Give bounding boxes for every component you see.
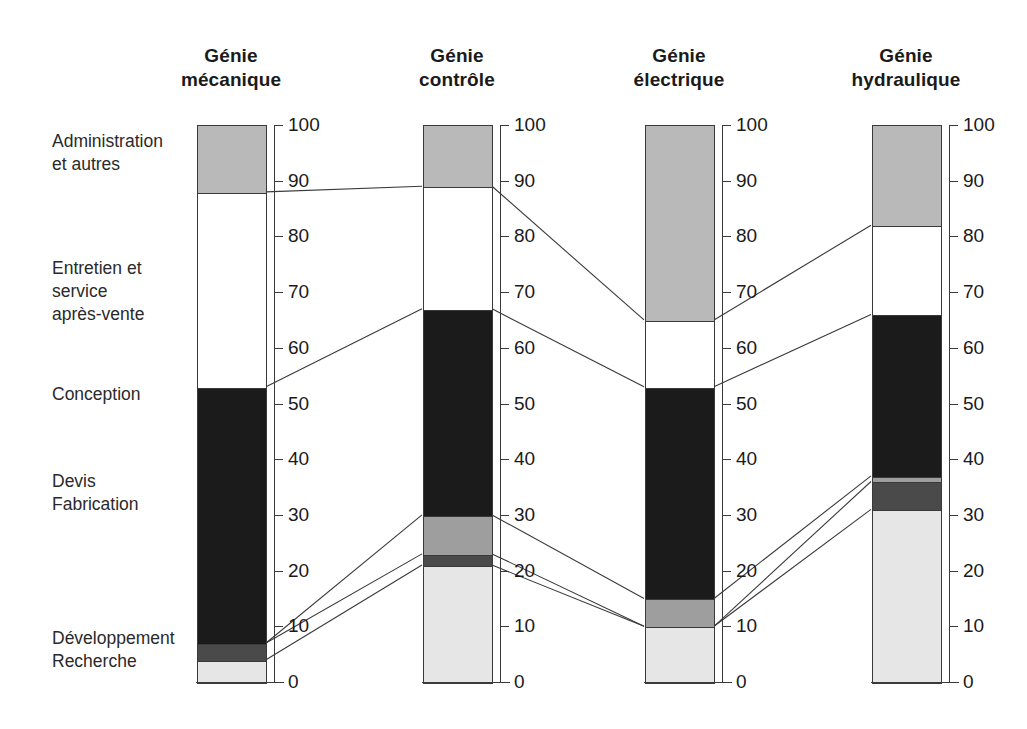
y-tick-label: 100 xyxy=(963,115,1003,134)
y-tick-label: 40 xyxy=(736,449,776,468)
segment-divider xyxy=(646,599,714,600)
segment-divider xyxy=(198,661,266,662)
y-tick-label: 20 xyxy=(514,561,554,580)
y-tick-label: 80 xyxy=(736,226,776,245)
column-header-genie-controle: Génie contrôle xyxy=(367,44,547,92)
segment-divider xyxy=(873,510,941,511)
x-axis-baseline-col2 xyxy=(422,682,510,683)
y-tick-label: 90 xyxy=(288,171,328,190)
y-tick-label: 0 xyxy=(963,672,1003,691)
y-tick xyxy=(500,181,509,182)
category-label-line: Fabrication xyxy=(52,493,202,516)
y-tick xyxy=(722,571,731,572)
y-tick xyxy=(949,571,958,572)
y-tick xyxy=(274,515,283,516)
y-tick xyxy=(500,404,509,405)
y-tick xyxy=(274,125,283,126)
y-tick-label: 30 xyxy=(514,505,554,524)
y-tick-label: 90 xyxy=(736,171,776,190)
y-tick xyxy=(949,292,958,293)
segment-divider xyxy=(198,388,266,389)
y-tick-label: 100 xyxy=(514,115,554,134)
segment-divider xyxy=(424,555,492,556)
y-tick-label: 30 xyxy=(963,505,1003,524)
y-tick xyxy=(722,125,731,126)
segment-divider xyxy=(424,187,492,188)
bar-segment-administration xyxy=(198,126,266,193)
y-tick-label: 50 xyxy=(736,394,776,413)
category-label-line: Développement xyxy=(52,627,202,650)
y-tick-label: 60 xyxy=(736,338,776,357)
stacked-bar-chart: Génie mécanique Génie contrôle Génie éle… xyxy=(0,0,1027,729)
column-header-line1: Génie xyxy=(589,44,769,68)
category-label-line: Entretien et xyxy=(52,257,202,280)
y-tick xyxy=(949,404,958,405)
bar-segment-fabrication xyxy=(198,644,266,661)
y-tick-label: 10 xyxy=(288,616,328,635)
bar-segment-fabrication xyxy=(424,555,492,566)
segment-divider xyxy=(873,315,941,316)
y-tick xyxy=(274,571,283,572)
category-label-line: et autres xyxy=(52,153,202,176)
y-tick-label: 50 xyxy=(514,394,554,413)
y-tick xyxy=(722,404,731,405)
y-tick-label: 0 xyxy=(736,672,776,691)
bar-segment-developpement xyxy=(646,627,714,683)
category-label-line: Recherche xyxy=(52,650,202,673)
y-tick xyxy=(500,125,509,126)
y-tick-label: 40 xyxy=(963,449,1003,468)
segment-divider xyxy=(873,482,941,483)
y-tick-label: 30 xyxy=(288,505,328,524)
category-label-devis-fabrication: Devis Fabrication xyxy=(52,470,202,516)
y-tick-label: 70 xyxy=(963,282,1003,301)
connector-line xyxy=(492,515,644,599)
y-tick xyxy=(500,571,509,572)
y-tick xyxy=(500,348,509,349)
y-tick-label: 20 xyxy=(963,561,1003,580)
category-label-entretien: Entretien et service après-vente xyxy=(52,257,202,326)
y-tick-label: 100 xyxy=(288,115,328,134)
segment-divider xyxy=(873,477,941,478)
y-tick-label: 10 xyxy=(514,616,554,635)
bar-segment-entretien xyxy=(873,226,941,315)
column-header-line2: mécanique xyxy=(141,68,321,92)
column-header-line1: Génie xyxy=(816,44,996,68)
bar-segment-administration xyxy=(646,126,714,321)
category-label-line: après-vente xyxy=(52,303,202,326)
x-axis-baseline-col4 xyxy=(871,682,959,683)
bar-segment-devis xyxy=(424,516,492,555)
column-header-genie-electrique: Génie électrique xyxy=(589,44,769,92)
y-tick-label: 30 xyxy=(736,505,776,524)
y-tick xyxy=(949,125,958,126)
y-tick-label: 100 xyxy=(736,115,776,134)
y-tick xyxy=(949,459,958,460)
column-header-line1: Génie xyxy=(367,44,547,68)
stacked-bar-g-nie-m-canique xyxy=(197,125,267,684)
y-tick-label: 90 xyxy=(963,171,1003,190)
bar-segment-entretien xyxy=(646,321,714,388)
category-label-conception: Conception xyxy=(52,383,202,406)
y-tick xyxy=(722,348,731,349)
y-tick xyxy=(722,181,731,182)
x-axis-baseline-col3 xyxy=(644,682,732,683)
segment-divider xyxy=(646,388,714,389)
segment-divider xyxy=(424,516,492,517)
y-tick xyxy=(949,236,958,237)
y-tick-label: 60 xyxy=(963,338,1003,357)
bar-segment-fabrication xyxy=(873,482,941,510)
column-header-line2: contrôle xyxy=(367,68,547,92)
y-tick xyxy=(500,236,509,237)
y-tick-label: 80 xyxy=(514,226,554,245)
y-tick xyxy=(949,626,958,627)
y-tick xyxy=(274,181,283,182)
column-header-genie-hydraulique: Génie hydraulique xyxy=(816,44,996,92)
bar-segment-administration xyxy=(424,126,492,187)
y-tick xyxy=(274,292,283,293)
bar-segment-devis xyxy=(646,599,714,627)
y-tick-label: 10 xyxy=(963,616,1003,635)
segment-divider xyxy=(424,566,492,567)
y-tick xyxy=(722,515,731,516)
category-label-line: Conception xyxy=(52,383,202,406)
y-tick-label: 10 xyxy=(736,616,776,635)
column-header-line1: Génie xyxy=(141,44,321,68)
